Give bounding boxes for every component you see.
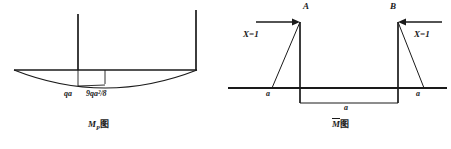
node-label-b: B (390, 2, 396, 11)
dim-label-left: a (266, 90, 270, 98)
left-panel-group (14, 10, 197, 88)
left-panel-caption: MP图 (88, 120, 109, 131)
force-label-left: X=1 (243, 30, 259, 39)
rect-bottom-edge (78, 85, 105, 86)
right-caption-symbol: M (332, 119, 340, 129)
right-panel-caption: M图 (332, 120, 349, 129)
qa-label: qa (64, 90, 72, 98)
dim-label-right: a (416, 90, 420, 98)
diagram-svg (0, 0, 451, 149)
force-label-right: X=1 (414, 30, 430, 39)
triangle-a-hypotenuse (272, 22, 300, 88)
dim-label-center: a (344, 104, 348, 112)
node-label-a: A (303, 2, 309, 11)
left-caption-symbol: M (88, 119, 96, 129)
parabola-curve (14, 70, 197, 88)
left-caption-suffix: 图 (100, 119, 109, 129)
right-caption-suffix: 图 (340, 119, 349, 129)
figure-canvas: qa 9qa²/8 MP图 A B X=1 X=1 a a a M图 (0, 0, 451, 149)
moment-label: 9qa²/8 (86, 90, 107, 98)
